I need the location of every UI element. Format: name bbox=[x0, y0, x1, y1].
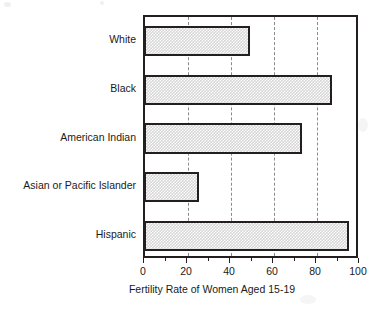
scan-artifact bbox=[4, 2, 11, 7]
y-axis-label-0: White bbox=[0, 33, 136, 45]
bar-row bbox=[145, 75, 356, 105]
x-tick-40 bbox=[229, 258, 230, 263]
y-axis-label-3: Asian or Pacific Islander bbox=[0, 179, 136, 191]
bar-asian-or-pacific-islander bbox=[144, 172, 199, 202]
y-axis-label-1: Black bbox=[0, 82, 136, 94]
plot-area bbox=[143, 15, 358, 258]
bar-american-indian bbox=[144, 123, 302, 153]
x-tick-80 bbox=[315, 258, 316, 263]
x-tick-100 bbox=[358, 258, 359, 263]
x-tick-label-80: 80 bbox=[309, 265, 321, 277]
x-axis-title: Fertility Rate of Women Aged 15-19 bbox=[0, 283, 386, 296]
x-tick-label-20: 20 bbox=[180, 265, 192, 277]
x-tick-label-60: 60 bbox=[266, 265, 278, 277]
x-tick-label-0: 0 bbox=[140, 265, 146, 277]
bar-chart: White Black American Indian Asian or Pac… bbox=[0, 0, 386, 312]
y-axis-label-4: Hispanic bbox=[0, 228, 136, 240]
x-tick-20 bbox=[186, 258, 187, 263]
bar-hispanic bbox=[144, 221, 349, 251]
bar-white bbox=[144, 26, 250, 56]
x-minor-tick-50 bbox=[251, 258, 252, 261]
bar-black bbox=[144, 75, 332, 105]
y-axis-label-2: American Indian bbox=[0, 131, 136, 143]
bar-row bbox=[145, 123, 356, 153]
x-axis-title-text: Fertility Rate of Women Aged 15-19 bbox=[129, 283, 295, 296]
x-minor-tick-70 bbox=[294, 258, 295, 261]
bar-row bbox=[145, 221, 356, 251]
bar-row bbox=[145, 172, 356, 202]
x-tick-label-100: 100 bbox=[349, 265, 367, 277]
scan-artifact bbox=[100, 1, 104, 5]
x-minor-tick-10 bbox=[165, 258, 166, 261]
x-tick-60 bbox=[272, 258, 273, 263]
bar-series bbox=[145, 17, 356, 256]
scan-artifact bbox=[358, 118, 368, 132]
x-tick-label-40: 40 bbox=[223, 265, 235, 277]
y-axis-category-labels: White Black American Indian Asian or Pac… bbox=[0, 15, 136, 258]
x-tick-0 bbox=[143, 258, 144, 263]
x-minor-tick-90 bbox=[337, 258, 338, 261]
bar-row bbox=[145, 26, 356, 56]
x-minor-tick-30 bbox=[208, 258, 209, 261]
